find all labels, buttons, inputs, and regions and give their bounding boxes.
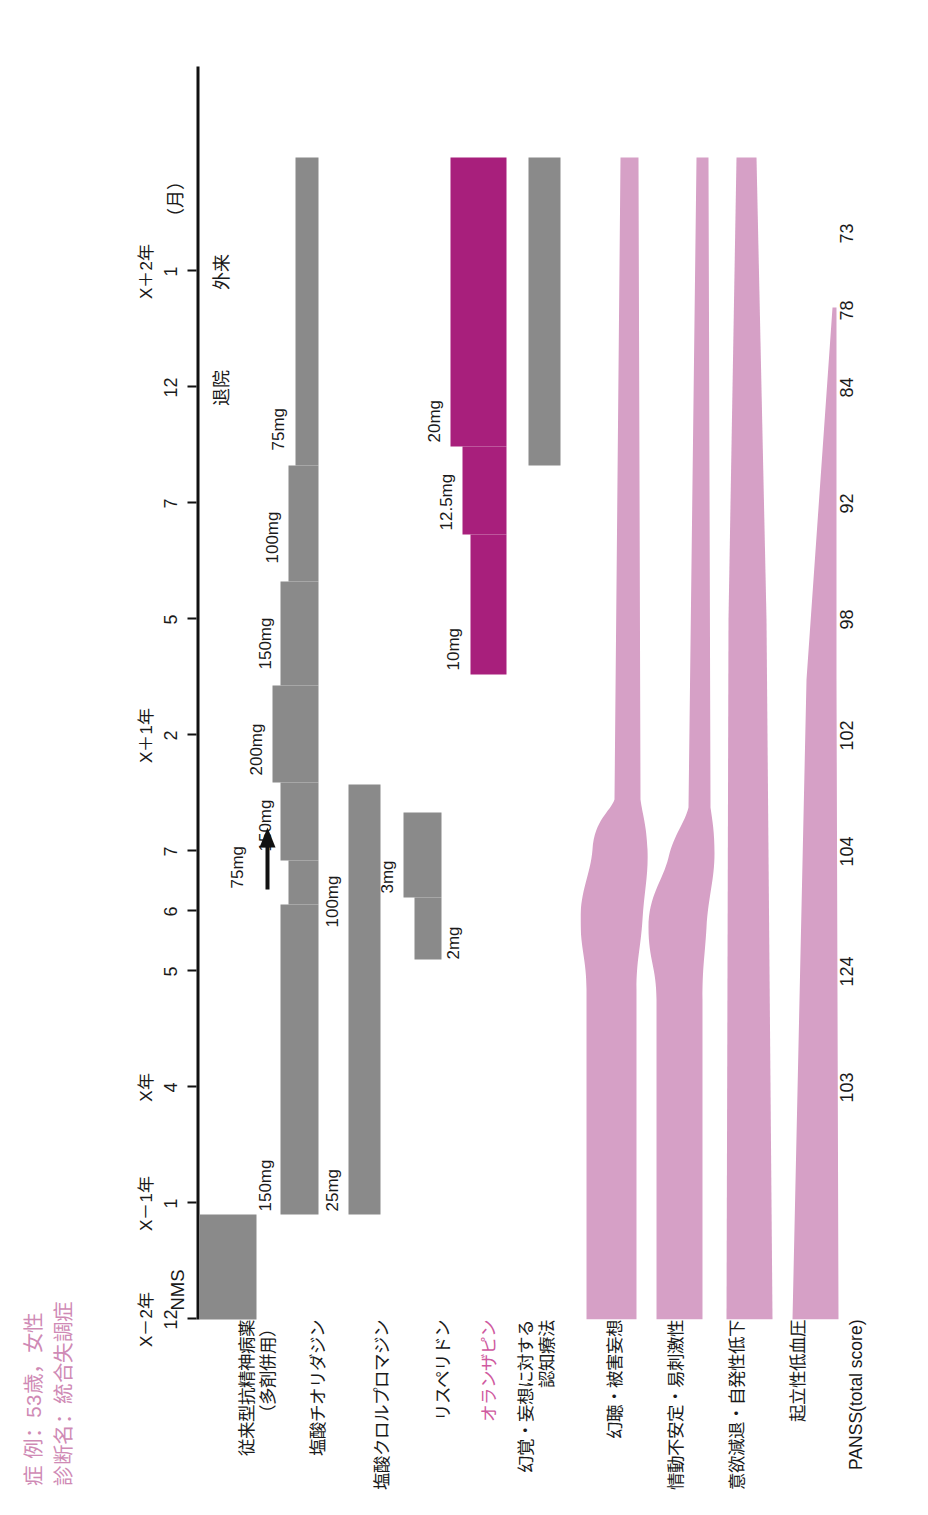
- switch-arrow-icon: [257, 825, 281, 891]
- phase-label-outpatient: 外来: [206, 253, 232, 289]
- row-label-line: 認知療法: [536, 1319, 557, 1472]
- dose-label-olanzapine: 12.5mg: [436, 473, 456, 530]
- bar-risperidone-seg: [414, 897, 441, 959]
- axis-month-label: 5: [160, 614, 181, 624]
- dose-label-switch-75mg: 75mg: [227, 845, 247, 888]
- panss-value: 73: [836, 223, 857, 243]
- row-label-line: 意欲減退・自発性低下: [726, 1319, 747, 1489]
- row-label-orthostatic-hypotension: 起立性低血圧: [787, 1319, 808, 1421]
- band-hallucination-delusion: [580, 157, 647, 1319]
- axis-year-label: X＋1年: [131, 708, 156, 763]
- axis-year-label: X－2年: [131, 1292, 156, 1347]
- row-label-line: 起立性低血圧: [787, 1319, 808, 1421]
- axis-tick: [187, 849, 196, 851]
- axis-month-label: 5: [160, 966, 181, 976]
- panss-value: 104: [836, 836, 857, 866]
- bar-thioridazine-seg: [272, 685, 318, 782]
- panss-value: 103: [836, 1072, 857, 1102]
- row-label-line: PANSS(total score): [845, 1319, 866, 1469]
- row-label-cognitive-therapy: 幻覚・妄想に対する 認知療法: [515, 1319, 557, 1472]
- bar-thioridazine-seg: [280, 782, 318, 860]
- annotation-nms: NMS: [166, 1269, 188, 1310]
- timeline-chart-canvas: 症 例：53歳，女性 診断名：統合失調症 X－2年 X－1年 X年 X＋1年 X…: [0, 0, 928, 1515]
- dose-label-thioridazine: 200mg: [246, 723, 266, 775]
- bar-thioridazine-seg: [288, 860, 318, 904]
- axis-month-label: 6: [160, 906, 181, 916]
- axis-tick: [187, 733, 196, 735]
- row-label-line: オランザピン: [478, 1319, 499, 1421]
- panss-value: 124: [836, 956, 857, 986]
- bar-thioridazine-seg: [280, 581, 318, 685]
- band-emotional-instability: [648, 157, 714, 1319]
- axis-year-label: X年: [131, 1073, 156, 1101]
- row-label-line: 情動不安定・易刺激性: [665, 1319, 686, 1489]
- row-label-thioridazine: 塩酸チオリダジン: [307, 1319, 328, 1455]
- dose-label-risperidone: 2mg: [443, 926, 463, 959]
- bar-olanzapine-seg: [470, 534, 506, 674]
- axis-tick: [187, 269, 196, 271]
- row-label-line: 塩酸チオリダジン: [307, 1319, 328, 1455]
- panss-value: 78: [836, 300, 857, 320]
- time-axis-line: [196, 66, 199, 1319]
- axis-month-label: 7: [160, 498, 181, 508]
- axis-month-label: 12: [160, 1309, 181, 1329]
- panss-value: 84: [836, 377, 857, 397]
- phase-label-discharge: 退院: [206, 369, 232, 405]
- row-label-line: （多剤併用）: [257, 1319, 278, 1455]
- row-label-emotional-instability: 情動不安定・易刺激性: [665, 1319, 686, 1489]
- axis-tick: [187, 1201, 196, 1203]
- figure-frame: 症 例：53歳，女性 診断名：統合失調症 X－2年 X－1年 X年 X＋1年 X…: [0, 0, 928, 1515]
- bar-olanzapine-seg: [450, 157, 506, 446]
- case-line-1: 症 例：53歳，女性: [18, 1301, 48, 1486]
- bar-conventional-antipsychotics: [199, 1214, 256, 1319]
- dose-label-olanzapine: 20mg: [424, 399, 444, 442]
- row-label-conventional-antipsychotics: 従来型抗精神病薬 （多剤併用）: [236, 1319, 278, 1455]
- axis-month-label: 7: [160, 846, 181, 856]
- symptom-bands-group: [580, 139, 870, 1319]
- panss-value: 102: [836, 720, 857, 750]
- case-header: 症 例：53歳，女性 診断名：統合失調症: [18, 1301, 78, 1486]
- axis-tick: [187, 385, 196, 387]
- bar-thioridazine-seg: [288, 465, 318, 581]
- axis-month-label: 1: [160, 1198, 181, 1208]
- row-label-olanzapine: オランザピン: [478, 1319, 499, 1421]
- row-label-motivation-decline: 意欲減退・自発性低下: [726, 1319, 747, 1489]
- row-label-line: リスペリドン: [432, 1319, 453, 1420]
- dose-label-thioridazine: 150mg: [255, 617, 275, 669]
- axis-tick: [187, 1085, 196, 1087]
- axis-unit-label: （月）: [160, 171, 186, 225]
- row-label-line: 塩酸クロルプロマジン: [371, 1319, 392, 1489]
- panss-value: 98: [836, 609, 857, 629]
- dose-label-thioridazine: 150mg: [255, 1159, 275, 1211]
- axis-tick: [187, 617, 196, 619]
- axis-month-label: 12: [160, 377, 181, 397]
- dose-label-thioridazine: 100mg: [262, 511, 282, 563]
- row-label-panss: PANSS(total score): [845, 1319, 866, 1469]
- dose-label-olanzapine: 10mg: [443, 627, 463, 670]
- row-label-risperidone: リスペリドン: [432, 1319, 453, 1420]
- band-motivation-decline: [726, 157, 772, 1319]
- axis-year-label: X－1年: [131, 1176, 156, 1231]
- axis-tick: [187, 1317, 196, 1319]
- axis-tick: [187, 501, 196, 503]
- bar-chlorpromazine: [348, 784, 380, 1214]
- row-label-line: 従来型抗精神病薬: [236, 1319, 257, 1455]
- case-line-2: 診断名：統合失調症: [48, 1301, 78, 1486]
- bar-olanzapine-seg: [462, 446, 506, 534]
- dose-label-thioridazine: 75mg: [268, 407, 288, 450]
- row-label-chlorpromazine: 塩酸クロルプロマジン: [371, 1319, 392, 1489]
- dose-label-thioridazine: 100mg: [322, 875, 342, 927]
- axis-tick: [187, 969, 196, 971]
- row-label-line: 幻聴・被害妄想: [604, 1319, 625, 1438]
- axis-month-label: 2: [160, 730, 181, 740]
- band-orthostatic-hypotension: [792, 307, 838, 1319]
- row-label-line: 幻覚・妄想に対する: [515, 1319, 536, 1472]
- bar-thioridazine-seg: [295, 157, 318, 465]
- row-label-hallucination-delusion: 幻聴・被害妄想: [604, 1319, 625, 1438]
- bar-thioridazine-seg: [280, 904, 318, 1214]
- bar-risperidone-seg: [403, 812, 441, 897]
- axis-tick: [187, 909, 196, 911]
- axis-year-label: X＋2年: [131, 244, 156, 299]
- axis-month-label: 4: [160, 1082, 181, 1092]
- dose-label-risperidone: 3mg: [377, 860, 397, 893]
